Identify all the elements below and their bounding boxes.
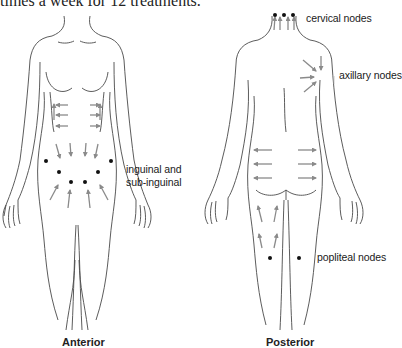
label-axillary-nodes: axillary nodes bbox=[339, 69, 402, 82]
posterior-body-outline bbox=[205, 16, 363, 330]
label-cervical-nodes: cervical nodes bbox=[306, 12, 372, 25]
inguinal-nodes bbox=[44, 159, 113, 184]
posterior-flow-arrows bbox=[254, 17, 321, 248]
view-label-anterior: Anterior bbox=[62, 336, 105, 348]
view-label-posterior: Posterior bbox=[266, 336, 314, 348]
label-popliteal-nodes: popliteal nodes bbox=[317, 251, 386, 264]
popliteal-nodes bbox=[268, 256, 301, 260]
label-inguinal-line2: sub-inguinal bbox=[126, 176, 181, 189]
label-inguinal-line1: inguinal and bbox=[126, 163, 181, 176]
cervical-nodes bbox=[273, 13, 295, 17]
anterior-flow-arrows bbox=[50, 104, 108, 208]
